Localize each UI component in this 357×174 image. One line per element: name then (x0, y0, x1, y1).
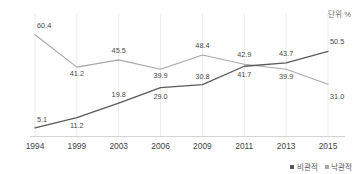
x-axis-tick-2006: 2006 (151, 141, 170, 151)
x-axis-tick-1999: 1999 (68, 141, 87, 151)
data-label-optimistic-2013: 39.9 (279, 72, 293, 81)
chart-plot-area: 60.441.245.539.948.442.939.931.05.111.21… (0, 0, 357, 174)
data-label-optimistic-2009: 48.4 (195, 41, 209, 50)
legend-item-pessimistic[interactable]: 비관적 (290, 161, 318, 172)
x-axis-tick-2013: 2013 (277, 141, 296, 151)
legend-label-optimistic: 낙관적 (331, 161, 352, 172)
data-label-optimistic-2003: 45.5 (112, 46, 126, 55)
data-label-optimistic-2011: 42.9 (237, 50, 251, 59)
data-label-pessimistic-2013: 43.7 (279, 49, 293, 58)
legend-label-pessimistic: 비관적 (297, 161, 318, 172)
legend-swatch-pessimistic (290, 165, 294, 169)
x-axis-tick-1994: 1994 (26, 141, 45, 151)
data-label-optimistic-1999: 41.2 (70, 69, 84, 78)
x-axis-tick-2015: 2015 (319, 141, 338, 151)
legend-swatch-optimistic (325, 165, 329, 169)
x-axis-tick-2003: 2003 (109, 141, 128, 151)
legend-item-optimistic[interactable]: 낙관적 (325, 161, 353, 172)
data-label-pessimistic-2009: 30.8 (195, 72, 209, 81)
data-label-optimistic-1994: 60.4 (37, 21, 51, 30)
data-labels: 60.441.245.539.948.442.939.931.05.111.21… (37, 21, 344, 130)
chart-legend: 비관적 낙관적 (290, 161, 352, 172)
data-label-pessimistic-1994: 5.1 (37, 115, 47, 124)
series-line-pessimistic (35, 51, 328, 127)
data-label-optimistic-2006: 39.9 (153, 71, 167, 80)
data-label-pessimistic-1999: 11.2 (70, 121, 84, 130)
data-label-optimistic-2015: 31.0 (330, 92, 344, 101)
data-label-pessimistic-2006: 29.0 (153, 92, 167, 101)
x-axis-tick-2009: 2009 (193, 141, 212, 151)
data-label-pessimistic-2003: 19.8 (112, 90, 126, 99)
line-chart: 단위 % 60.441.245.539.948.442.939.931.05.1… (0, 0, 357, 174)
data-label-pessimistic-2011: 41.7 (237, 70, 251, 79)
x-axis-tick-2011: 2011 (235, 141, 253, 151)
data-label-pessimistic-2015: 50.5 (330, 37, 344, 46)
